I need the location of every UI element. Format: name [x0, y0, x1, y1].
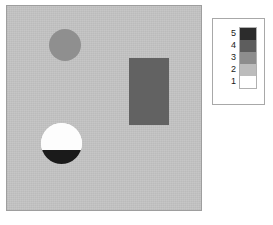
- legend-swatch-2: [240, 64, 256, 76]
- legend-label-4: 4: [223, 39, 236, 51]
- shape-split-circle-upper-half: [41, 123, 82, 150]
- legend-body: 5 4 3 2 1: [223, 27, 257, 89]
- image-noise-texture: [7, 6, 201, 210]
- shape-split-circle-lower-half: [41, 150, 82, 164]
- legend-label-column: 5 4 3 2 1: [223, 27, 239, 87]
- classified-image-panel: [6, 5, 202, 211]
- legend-swatch-1: [240, 76, 256, 88]
- figure-canvas: 5 4 3 2 1: [0, 0, 273, 225]
- legend-label-2: 2: [223, 63, 236, 75]
- legend-label-3: 3: [223, 51, 236, 63]
- shape-split-circle: [41, 123, 82, 164]
- shape-small-circle: [49, 29, 81, 61]
- legend-swatch-3: [240, 52, 256, 64]
- shape-rectangle: [129, 58, 169, 125]
- legend-swatch-5: [240, 28, 256, 40]
- legend-label-1: 1: [223, 75, 236, 87]
- legend-box: 5 4 3 2 1: [212, 18, 265, 105]
- legend-swatch-4: [240, 40, 256, 52]
- legend-swatch-column: [239, 27, 257, 89]
- legend-label-5: 5: [223, 27, 236, 39]
